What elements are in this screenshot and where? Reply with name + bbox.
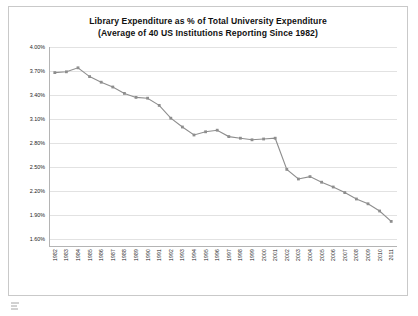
x-axis-tick-label: 2010 (377, 249, 383, 261)
x-axis-tick-label: 2011 (388, 249, 394, 261)
x-axis-tick-label: 2004 (307, 249, 313, 261)
y-axis-tick-label: 1.60% (30, 236, 45, 242)
x-axis-tick-label: 1987 (110, 249, 116, 261)
x-axis-tick-label: 2005 (319, 249, 325, 261)
x-axis-tick-label: 1994 (191, 249, 197, 261)
x-axis-tick-label: 1993 (179, 249, 185, 261)
x-axis-tick-label: 1982 (52, 249, 58, 261)
y-axis-tick-label: 3.40% (30, 92, 45, 98)
x-axis-tick-label: 1991 (156, 249, 162, 261)
x-axis-tick-label: 1984 (75, 249, 81, 261)
chart-title-block: Library Expenditure as % of Total Univer… (9, 15, 407, 39)
chart-card: Library Expenditure as % of Total Univer… (8, 6, 408, 296)
x-axis-tick-label: 1983 (63, 249, 69, 261)
x-axis-tick-label: 2007 (342, 249, 348, 261)
x-axis-tick-label: 1990 (145, 249, 151, 261)
x-axis-tick-label: 1988 (121, 249, 127, 261)
x-axis-tick-label: 2009 (365, 249, 371, 261)
x-axis-tick-label: 1986 (98, 249, 104, 261)
x-axis-tick-label: 2008 (353, 249, 359, 261)
x-axis-tick-label: 2006 (330, 249, 336, 261)
y-axis-tick-label: 2.20% (30, 188, 45, 194)
y-axis-tick-label: 2.50% (30, 164, 45, 170)
x-axis-tick-label: 2002 (284, 249, 290, 261)
y-axis-tick-label: 3.70% (30, 68, 45, 74)
x-axis-tick-label: 1999 (249, 249, 255, 261)
x-axis-tick-label: 1997 (226, 249, 232, 261)
x-axis-tick-label: 1989 (133, 249, 139, 261)
x-axis-tick-label: 1985 (87, 249, 93, 261)
footer-glyph (10, 302, 20, 310)
x-axis-tick-label: 1996 (214, 249, 220, 261)
data-series-line (49, 47, 397, 247)
x-axis-tick-label: 2003 (295, 249, 301, 261)
x-axis-tick-label: 2000 (261, 249, 267, 261)
y-axis-tick-label: 4.00% (30, 44, 45, 50)
x-axis-tick-label: 1992 (168, 249, 174, 261)
chart-subtitle: (Average of 40 US Institutions Reporting… (9, 27, 407, 39)
x-axis-tick-label: 1995 (203, 249, 209, 261)
x-axis-tick-label: 2001 (272, 249, 278, 261)
plot-area: 4.00%3.70%3.40%3.10%2.80%2.50%2.20%1.90%… (49, 47, 397, 247)
page-title: Library Expenditure as % of Total Univer… (9, 15, 407, 27)
y-axis-tick-label: 1.90% (30, 212, 45, 218)
y-axis-tick-label: 2.80% (30, 140, 45, 146)
x-axis-tick-label: 1998 (237, 249, 243, 261)
y-axis-tick-label: 3.10% (30, 116, 45, 122)
